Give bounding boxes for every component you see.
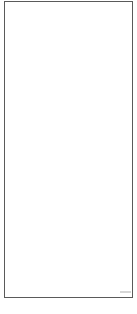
grid-cell-r5-c3 [69, 182, 101, 238]
grid-cell-r1-c2 [37, 2, 69, 35]
grid-cell-r5-c1 [5, 182, 37, 238]
grid-cell-r6-c2 [37, 238, 69, 297]
grid-cell-r1-c1 [5, 2, 37, 35]
grid-cell-r2-c1 [5, 35, 37, 76]
grid-cell-r4-c1 [5, 139, 37, 182]
grid-cell-r3-c2 [37, 76, 69, 139]
grid-cell-r2-c3 [69, 35, 101, 76]
grid-cell-r6-c4 [101, 238, 132, 297]
grid-cells [5, 2, 132, 297]
grid-cell-r4-c3 [69, 139, 101, 182]
grid-cell-r2-c2 [37, 35, 69, 76]
grid-cell-r4-c2 [37, 139, 69, 182]
grid-cell-r1-c4 [101, 2, 132, 35]
grid-cell-r4-c4 [101, 139, 132, 182]
grid-cell-r3-c4 [101, 76, 132, 139]
grid-cell-r3-c1 [5, 76, 37, 139]
grid-cell-r1-c3 [69, 2, 101, 35]
grid-cell-r2-c4 [101, 35, 132, 76]
grid-cell-r6-c3 [69, 238, 101, 297]
grid-cell-r3-c3 [69, 76, 101, 139]
grid-cell-r6-c1 [5, 238, 37, 297]
grid-cell-r5-c2 [37, 182, 69, 238]
grid-cell-r5-c4 [101, 182, 132, 238]
blank-table-grid [0, 0, 137, 314]
